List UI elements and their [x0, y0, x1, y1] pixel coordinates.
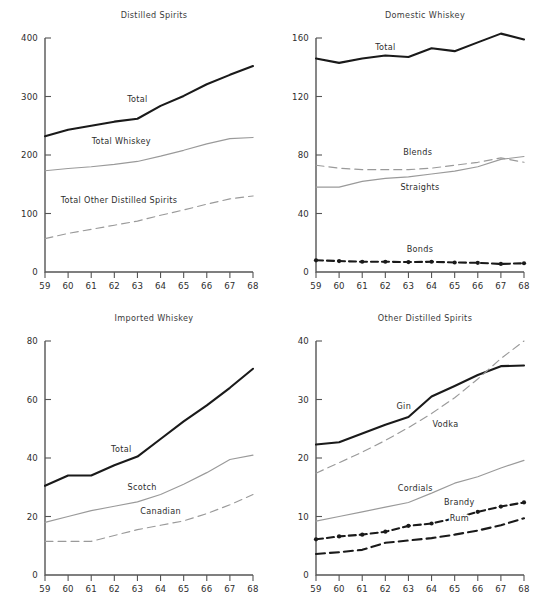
chart-axes: [45, 38, 253, 272]
y-tick-label: 100: [21, 209, 38, 219]
x-tick-label: 63: [132, 584, 143, 594]
chart-panel-domestic-whiskey: Domestic Whiskey040801201605960616263646…: [271, 0, 542, 303]
series-label-total-whiskey: Total Whiskey: [91, 136, 151, 146]
series-marker-bonds: [522, 261, 526, 265]
x-tick-label: 68: [518, 584, 529, 594]
x-tick-label: 61: [357, 584, 368, 594]
x-tick-label: 60: [62, 584, 73, 594]
series-label-total: Total: [374, 42, 395, 52]
x-tick-label: 65: [449, 584, 460, 594]
y-tick-label: 120: [292, 92, 309, 102]
chart-title: Distilled Spirits: [121, 10, 188, 20]
y-tick-label: 300: [21, 92, 38, 102]
y-tick-label: 30: [298, 395, 309, 405]
x-tick-label: 61: [357, 281, 368, 291]
x-tick-label: 67: [224, 281, 235, 291]
series-line-bonds: [316, 260, 524, 264]
x-tick-label: 60: [333, 584, 344, 594]
series-label-total: Total: [110, 444, 131, 454]
x-tick-label: 63: [403, 281, 414, 291]
chart-title: Domestic Whiskey: [385, 10, 465, 20]
x-tick-label: 65: [178, 281, 189, 291]
series-line-blends: [316, 158, 524, 170]
series-label-scotch: Scotch: [128, 482, 157, 492]
x-tick-label: 60: [333, 281, 344, 291]
series-label-blends: Blends: [403, 147, 432, 157]
series-label-total-other-distilled-spirits: Total Other Distilled Spirits: [60, 195, 178, 205]
chart-panel-other-distilled-spirits: Other Distilled Spirits01020304059606162…: [271, 303, 542, 607]
x-tick-label: 68: [518, 281, 529, 291]
series-marker-brandy: [499, 504, 503, 508]
y-tick-label: 40: [27, 453, 38, 463]
y-tick-label: 80: [27, 336, 38, 346]
x-tick-label: 67: [224, 584, 235, 594]
series-label-brandy: Brandy: [444, 497, 475, 507]
y-tick-label: 0: [32, 570, 38, 580]
series-marker-bonds: [499, 262, 503, 266]
y-tick-label: 0: [303, 267, 309, 277]
x-tick-label: 66: [201, 584, 212, 594]
series-marker-bonds: [476, 261, 480, 265]
series-line-brandy: [316, 502, 524, 539]
x-tick-label: 61: [86, 584, 97, 594]
x-tick-label: 66: [201, 281, 212, 291]
series-marker-brandy: [522, 500, 526, 504]
series-marker-brandy: [476, 510, 480, 514]
series-marker-brandy: [383, 530, 387, 534]
series-label-cordials: Cordials: [398, 483, 433, 493]
y-tick-label: 60: [27, 395, 38, 405]
series-marker-bonds: [337, 259, 341, 263]
series-label-bonds: Bonds: [407, 244, 434, 254]
x-tick-label: 59: [39, 281, 50, 291]
series-line-gin: [316, 366, 524, 445]
y-tick-label: 0: [303, 570, 309, 580]
series-label-total: Total: [126, 94, 147, 104]
chart-panel-distilled-spirits: Distilled Spirits01002003004005960616263…: [0, 0, 271, 303]
series-marker-bonds: [429, 260, 433, 264]
series-marker-brandy: [360, 533, 364, 537]
figure-four-panel-liquor-charts: Distilled Spirits01002003004005960616263…: [0, 0, 542, 607]
x-tick-label: 66: [472, 584, 483, 594]
x-tick-label: 62: [380, 584, 391, 594]
series-line-rum: [316, 518, 524, 554]
series-marker-bonds: [360, 260, 364, 264]
x-tick-label: 64: [426, 584, 437, 594]
x-tick-label: 65: [178, 584, 189, 594]
y-tick-label: 0: [32, 267, 38, 277]
series-label-vodka: Vodka: [432, 419, 458, 429]
series-label-straights: Straights: [400, 182, 439, 192]
series-marker-brandy: [337, 534, 341, 538]
series-label-gin: Gin: [397, 401, 412, 411]
y-tick-label: 80: [298, 150, 309, 160]
series-line-canadian: [45, 495, 253, 542]
y-tick-label: 40: [298, 336, 309, 346]
y-tick-label: 400: [21, 33, 38, 43]
series-marker-brandy: [314, 537, 318, 541]
x-tick-label: 66: [472, 281, 483, 291]
x-tick-label: 61: [86, 281, 97, 291]
x-tick-label: 59: [310, 281, 321, 291]
x-tick-label: 65: [449, 281, 460, 291]
series-line-total: [316, 34, 524, 63]
chart-svg-domestic-whiskey: Domestic Whiskey040801201605960616263646…: [271, 0, 542, 303]
x-tick-label: 62: [109, 584, 120, 594]
y-tick-label: 20: [27, 512, 38, 522]
x-tick-label: 67: [495, 584, 506, 594]
series-marker-bonds: [406, 260, 410, 264]
x-tick-label: 59: [39, 584, 50, 594]
chart-panel-imported-whiskey: Imported Whiskey020406080596061626364656…: [0, 303, 271, 607]
x-tick-label: 67: [495, 281, 506, 291]
series-line-total: [45, 66, 253, 136]
x-tick-label: 64: [155, 584, 166, 594]
x-tick-label: 68: [247, 584, 258, 594]
chart-svg-imported-whiskey: Imported Whiskey020406080596061626364656…: [0, 303, 271, 607]
x-tick-label: 63: [403, 584, 414, 594]
series-marker-bonds: [383, 260, 387, 264]
chart-svg-other-distilled-spirits: Other Distilled Spirits01020304059606162…: [271, 303, 542, 607]
x-tick-label: 64: [155, 281, 166, 291]
chart-svg-distilled-spirits: Distilled Spirits01002003004005960616263…: [0, 0, 271, 303]
x-tick-label: 68: [247, 281, 258, 291]
x-tick-label: 63: [132, 281, 143, 291]
series-label-rum: Rum: [450, 513, 469, 523]
y-tick-label: 10: [298, 512, 309, 522]
